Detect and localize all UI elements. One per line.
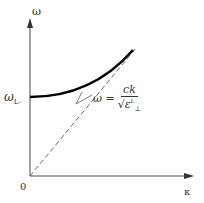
epsilon-superscript: L xyxy=(131,97,135,104)
x-axis-arrow-icon xyxy=(184,173,194,179)
equation-fraction: ck √εL⊥ xyxy=(118,84,142,113)
cutoff-frequency-label: ωL- xyxy=(4,91,21,106)
sqrt-icon: √ xyxy=(118,98,125,111)
equation-numerator: ck xyxy=(121,84,138,97)
y-axis-arrow-icon xyxy=(27,18,33,28)
equation-denominator: √εL⊥ xyxy=(118,97,142,113)
x-axis-label: κ xyxy=(184,187,190,197)
light-line-equation: ω = ck √εL⊥ xyxy=(93,84,141,113)
origin-label: 0 xyxy=(20,182,26,192)
y-axis-label: ω xyxy=(32,6,41,17)
epsilon-subscript: ⊥ xyxy=(135,105,142,113)
equation-lhs: ω = xyxy=(93,93,115,104)
cutoff-symbol: ω xyxy=(4,90,14,104)
cutoff-subscript: L- xyxy=(14,98,21,106)
